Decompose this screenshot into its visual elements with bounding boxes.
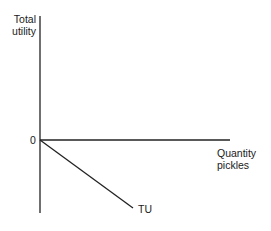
y-axis-label-line2: utility xyxy=(12,25,36,37)
x-axis-label: Quantity pickles xyxy=(217,147,256,171)
tu-line xyxy=(40,140,133,208)
tu-curve-label: TU xyxy=(138,203,152,215)
y-axis-label: Total utility xyxy=(12,13,36,37)
x-axis-label-line1: Quantity xyxy=(217,147,256,159)
total-utility-chart: Total utility 0 Quantity pickles TU xyxy=(0,0,271,231)
origin-label: 0 xyxy=(30,134,36,146)
chart-canvas xyxy=(0,0,271,231)
x-axis-label-line2: pickles xyxy=(217,159,256,171)
y-axis-label-line1: Total xyxy=(12,13,36,25)
